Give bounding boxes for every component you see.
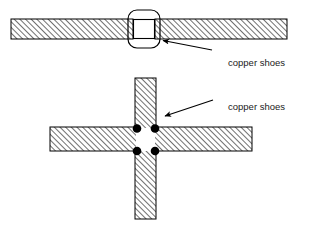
plan-vertical-bar-lower bbox=[135, 150, 156, 219]
copper-shoe-dot-top-right bbox=[151, 124, 160, 133]
plan-vertical-bar-upper bbox=[135, 78, 156, 129]
elevation-view-group bbox=[11, 10, 287, 50]
copper-shoes-label-bottom: copper shoes bbox=[228, 101, 285, 112]
plan-horizontal-bar-left bbox=[50, 127, 137, 151]
elevation-bar-right-segment bbox=[155, 19, 287, 39]
leader-arrow-elevation bbox=[163, 41, 212, 51]
copper-shoe-dot-bottom-right bbox=[151, 147, 160, 156]
plan-horizontal-bar-right bbox=[154, 127, 252, 151]
leader-arrow-plan bbox=[165, 100, 213, 116]
copper-shoe-dot-bottom-left bbox=[133, 147, 142, 156]
elevation-bar-left-segment bbox=[11, 19, 133, 39]
plan-view-group bbox=[50, 78, 252, 219]
copper-shoe-opening-elevation bbox=[134, 20, 155, 39]
copper-shoes-diagram: copper shoes copper shoes bbox=[0, 0, 309, 235]
copper-shoes-label-top: copper shoes bbox=[228, 57, 285, 68]
diagram-canvas: copper shoes copper shoes bbox=[0, 0, 309, 235]
copper-shoe-dot-top-left bbox=[133, 124, 142, 133]
